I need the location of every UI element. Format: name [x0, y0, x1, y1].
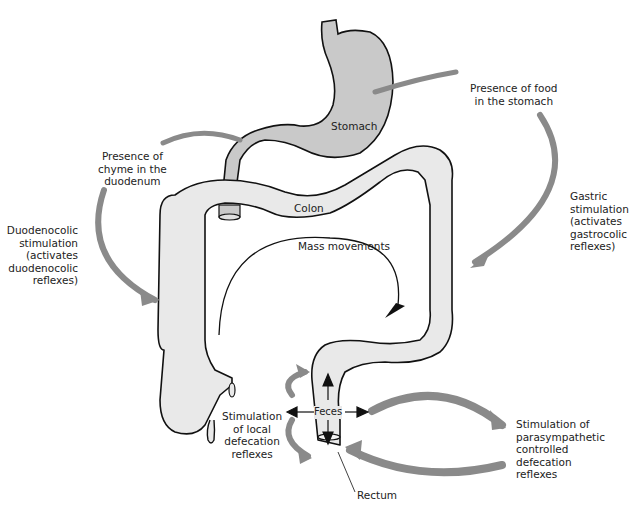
food-in-stomach-label: Presence of foodin the stomach [470, 82, 558, 107]
feces-label: Feces [314, 406, 342, 419]
parasym-arrow-out [372, 396, 502, 425]
rectum-label: Rectum [357, 489, 397, 502]
parasympathetic-label: Stimulation ofparasympatheticcontrolledd… [516, 418, 605, 481]
mass-movements-label: Mass movements [298, 240, 390, 253]
appendix [207, 420, 214, 443]
duodenum-opening [219, 214, 240, 220]
chyme-arrow [163, 133, 240, 143]
gastric-stimulation-label: Gastricstimulation(activatesgastrocolicr… [570, 190, 629, 253]
gastric-arrow [475, 115, 555, 262]
ileum-stump [229, 383, 235, 397]
parasym-arrow-in [350, 450, 502, 472]
stomach-shape [223, 20, 393, 190]
rectum-leader [338, 452, 355, 492]
chyme-label: Presence ofchyme in theduodenum [98, 150, 167, 188]
mass-movements-arrowhead [385, 303, 405, 318]
colon-label: Colon [294, 202, 324, 215]
stomach-label: Stomach [331, 120, 377, 133]
duodenocolic-arrow [98, 190, 155, 300]
duodenocolic-label: Duodenocolicstimulation(activatesduodeno… [6, 224, 78, 287]
local-defecation-label: Stimulationof localdefecationreflexes [222, 410, 282, 460]
